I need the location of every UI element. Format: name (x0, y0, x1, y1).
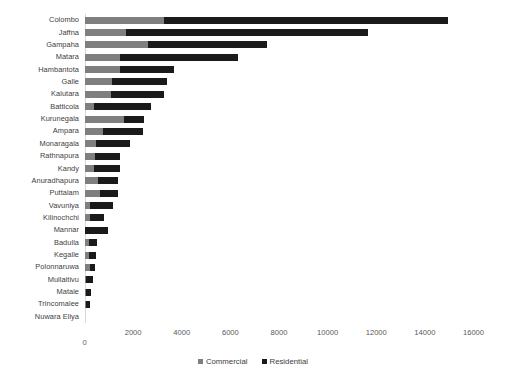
bar-segment-residential[interactable] (94, 165, 119, 172)
category-label: Mannar (0, 226, 79, 234)
bar-row[interactable] (85, 177, 119, 184)
bar-segment-commercial[interactable] (85, 128, 103, 135)
category-label: Trincomalee (0, 300, 79, 308)
bar-segment-commercial[interactable] (85, 116, 124, 123)
bar-row[interactable] (85, 140, 130, 147)
stacked-bar-chart: ColomboJaffnaGampahaMataraHambantotaGall… (0, 0, 506, 381)
category-label: Vavuniya (0, 202, 79, 210)
category-label: Nuwara Eliya (0, 313, 79, 321)
category-axis-labels: ColomboJaffnaGampahaMataraHambantotaGall… (0, 14, 79, 323)
bar-segment-residential[interactable] (90, 264, 96, 271)
bar-segment-commercial[interactable] (85, 29, 127, 36)
category-label: Mullaitivu (0, 276, 79, 284)
category-label: Colombo (0, 16, 79, 24)
bar-segment-commercial[interactable] (85, 91, 111, 98)
bar-segment-residential[interactable] (90, 214, 105, 221)
bar-segment-commercial[interactable] (85, 153, 95, 160)
bar-row[interactable] (85, 227, 109, 234)
bar-segment-residential[interactable] (96, 140, 130, 147)
bar-row[interactable] (85, 78, 168, 85)
category-label: Kandy (0, 165, 79, 173)
x-axis-tick-label: 6000 (222, 328, 239, 337)
category-label: Kalutara (0, 90, 79, 98)
category-label: Galle (0, 78, 79, 86)
bar-segment-residential[interactable] (94, 103, 150, 110)
bar-segment-residential[interactable] (95, 153, 121, 160)
bar-segment-commercial[interactable] (85, 103, 95, 110)
bar-segment-residential[interactable] (90, 202, 113, 209)
legend-label: Commercial (206, 357, 248, 366)
bar-segment-residential[interactable] (100, 190, 118, 197)
category-label: Gampaha (0, 41, 79, 49)
bar-row[interactable] (85, 202, 113, 209)
x-axis-tick-label: 10000 (317, 328, 338, 337)
bar-row[interactable] (85, 103, 151, 110)
bar-row[interactable] (85, 54, 238, 61)
bar-segment-residential[interactable] (98, 177, 118, 184)
bar-segment-residential[interactable] (120, 66, 174, 73)
bar-segment-residential[interactable] (85, 227, 108, 234)
x-axis-tick-label: 8000 (271, 328, 288, 337)
bar-segment-commercial[interactable] (85, 66, 120, 73)
bar-segment-residential[interactable] (103, 128, 143, 135)
legend-item[interactable]: Commercial (198, 357, 248, 366)
bar-row[interactable] (85, 214, 105, 221)
x-axis-tick-label: 12000 (366, 328, 387, 337)
category-label: Puttalam (0, 189, 79, 197)
bar-segment-residential[interactable] (126, 29, 367, 36)
bar-segment-commercial[interactable] (85, 177, 98, 184)
bar-row[interactable] (85, 41, 267, 48)
x-axis-tick-label: 14000 (414, 328, 435, 337)
bar-segment-commercial[interactable] (85, 78, 113, 85)
bar-segment-commercial[interactable] (85, 54, 121, 61)
legend-item[interactable]: Residential (262, 357, 309, 366)
bar-segment-residential[interactable] (124, 116, 144, 123)
bar-segment-residential[interactable] (86, 276, 93, 283)
bar-segment-residential[interactable] (86, 289, 91, 296)
category-label: Kurunegala (0, 115, 79, 123)
bar-segment-residential[interactable] (112, 78, 167, 85)
bar-segment-commercial[interactable] (85, 165, 95, 172)
category-label: Batticola (0, 103, 79, 111)
bar-row[interactable] (85, 264, 96, 271)
bar-row[interactable] (85, 66, 175, 73)
bar-row[interactable] (85, 153, 121, 160)
category-label: Matale (0, 288, 79, 296)
bar-segment-residential[interactable] (86, 301, 90, 308)
bar-row[interactable] (85, 91, 164, 98)
category-label: Hambantota (0, 66, 79, 74)
category-label: Jaffna (0, 29, 79, 37)
legend-swatch-icon (198, 359, 203, 364)
bar-row[interactable] (85, 276, 94, 283)
chart-legend: CommercialResidential (0, 357, 506, 366)
x-axis-tick-label: 4000 (173, 328, 190, 337)
bar-row[interactable] (85, 116, 145, 123)
bar-segment-commercial[interactable] (85, 41, 149, 48)
bar-segment-commercial[interactable] (85, 17, 165, 24)
bar-row[interactable] (85, 128, 143, 135)
category-label: Anuradhapura (0, 177, 79, 185)
category-label: Monaragala (0, 140, 79, 148)
x-axis-tick-label: 0 (82, 338, 86, 347)
bar-segment-residential[interactable] (120, 54, 237, 61)
bar-row[interactable] (85, 190, 119, 197)
bar-segment-commercial[interactable] (85, 190, 101, 197)
legend-label: Residential (270, 357, 309, 366)
bar-segment-residential[interactable] (111, 91, 164, 98)
bar-segment-residential[interactable] (89, 239, 97, 246)
bar-segment-residential[interactable] (164, 17, 448, 24)
bar-row[interactable] (85, 29, 368, 36)
bar-segment-residential[interactable] (89, 252, 95, 259)
x-axis-tick-label: 16000 (463, 328, 484, 337)
bar-row[interactable] (85, 165, 120, 172)
bar-row[interactable] (85, 301, 90, 308)
bar-row[interactable] (85, 289, 92, 296)
bar-segment-commercial[interactable] (85, 140, 97, 147)
bar-row[interactable] (85, 252, 96, 259)
bar-segment-residential[interactable] (148, 41, 266, 48)
category-label: Matara (0, 53, 79, 61)
category-label: Polonnaruwa (0, 263, 79, 271)
category-label: Kegalle (0, 251, 79, 259)
bar-row[interactable] (85, 17, 448, 24)
bar-row[interactable] (85, 239, 97, 246)
